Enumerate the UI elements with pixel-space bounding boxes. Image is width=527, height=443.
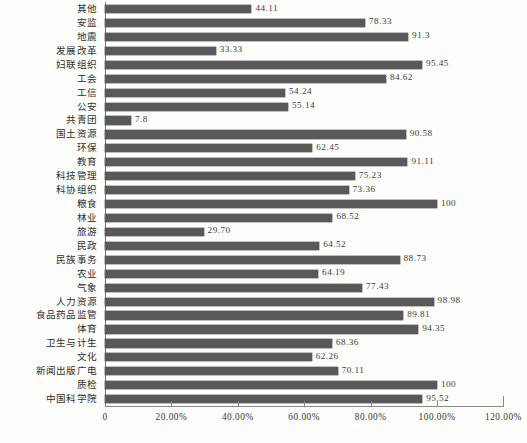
bar-value-label: 75.23: [359, 169, 382, 183]
y-axis-label: 质检: [77, 378, 97, 392]
y-axis-category-labels: 其他安监地震发展改革妇联组织工会工信公安共青团国土资源环保教育科技管理科协组织粮…: [0, 2, 101, 406]
bar-value-label: 98.98: [438, 294, 461, 308]
bar-row: 100: [105, 197, 503, 211]
bar: [105, 339, 332, 347]
y-axis-label: 国土资源: [56, 127, 97, 141]
bar-row: 62.26: [105, 350, 503, 364]
bar-value-label: 68.36: [336, 336, 359, 350]
y-axis-label: 体育: [77, 322, 97, 336]
x-tick-mark: [238, 401, 239, 406]
x-tick-label: 120.00%: [485, 412, 522, 422]
bar: [105, 325, 418, 333]
bar-value-label: 64.52: [323, 238, 346, 252]
bar-value-label: 84.62: [390, 71, 413, 85]
bar: [105, 311, 403, 319]
bar-chart: 其他安监地震发展改革妇联组织工会工信公安共青团国土资源环保教育科技管理科协组织粮…: [0, 0, 527, 443]
bar-value-label: 95.45: [426, 57, 449, 71]
x-tick-mark: [304, 401, 305, 406]
bar: [105, 158, 407, 166]
y-axis-label: 科技管理: [56, 169, 97, 183]
bar-row: 90.58: [105, 127, 503, 141]
bar-value-label: 70.11: [342, 364, 365, 378]
bar-row: 91.3: [105, 30, 503, 44]
bar-row: 68.52: [105, 211, 503, 225]
x-tick-label: 80.00%: [355, 412, 387, 422]
bar-row: 88.73: [105, 253, 503, 267]
bar-value-label: 77.43: [366, 280, 389, 294]
x-tick-label: 100.00%: [419, 412, 456, 422]
bar-value-label: 89.81: [407, 308, 430, 322]
bar-value-label: 90.58: [410, 127, 433, 141]
bar-row: 75.23: [105, 169, 503, 183]
bar: [105, 353, 312, 361]
figure-caption: [0, 436, 527, 443]
bar-value-label: 73.36: [353, 183, 376, 197]
bar-row: 29.70: [105, 225, 503, 239]
bar-row: 68.36: [105, 336, 503, 350]
bar-row: 7.8: [105, 113, 503, 127]
y-axis-label: 粮食: [77, 197, 97, 211]
bar-value-label: 78.33: [369, 15, 392, 29]
bar-value-label: 94.35: [422, 322, 445, 336]
bar: [105, 228, 204, 236]
bar: [105, 47, 216, 55]
bar-value-label: 91.11: [411, 155, 434, 169]
x-tick-mark: [503, 401, 504, 406]
bar-value-label: 54.24: [289, 85, 312, 99]
bar: [105, 200, 437, 208]
x-tick-label: 40.00%: [222, 412, 254, 422]
bar: [105, 172, 355, 180]
y-axis-label: 新闻出版广电: [36, 364, 97, 378]
bar: [105, 214, 332, 222]
bar: [105, 130, 406, 138]
bar-value-label: 29.70: [208, 224, 231, 238]
bar: [105, 75, 386, 83]
bar-value-label: 7.8: [135, 113, 148, 127]
y-axis-label: 工会: [77, 72, 97, 86]
bar: [105, 186, 349, 194]
y-axis-label: 卫生与计生: [46, 336, 97, 350]
bar-value-label: 33.33: [220, 43, 243, 57]
bar-value-label: 68.52: [336, 210, 359, 224]
bar: [105, 33, 408, 41]
bar: [105, 103, 288, 111]
bar: [105, 242, 319, 250]
bar-row: 73.36: [105, 183, 503, 197]
y-axis-label: 妇联组织: [56, 58, 97, 72]
y-axis-label: 安监: [77, 16, 97, 30]
x-tick-mark: [437, 401, 438, 406]
bar-row: 94.35: [105, 322, 503, 336]
y-axis-label: 共青团: [66, 113, 97, 127]
bar-value-label: 55.14: [292, 99, 315, 113]
y-axis-label: 环保: [77, 141, 97, 155]
bar-row: 84.62: [105, 72, 503, 86]
bar: [105, 284, 362, 292]
bar-value-label: 100: [441, 197, 456, 211]
bar-row: 91.11: [105, 155, 503, 169]
bar: [105, 144, 312, 152]
bar-row: 62.45: [105, 141, 503, 155]
bar-row: 77.43: [105, 281, 503, 295]
bar-row: 44.11: [105, 2, 503, 16]
bar-row: 70.11: [105, 364, 503, 378]
bar-value-label: 91.3: [412, 29, 430, 43]
y-axis-label: 工信: [77, 86, 97, 100]
bar: [105, 89, 285, 97]
y-axis-label: 公安: [77, 100, 97, 114]
bar: [105, 270, 318, 278]
bar-row: 54.24: [105, 86, 503, 100]
bar: [105, 19, 365, 27]
bar-row: 100: [105, 378, 503, 392]
y-axis-label: 食品药品监管: [36, 308, 97, 322]
bar-value-label: 62.45: [316, 141, 339, 155]
x-tick-mark: [171, 401, 172, 406]
bar-value-label: 88.73: [404, 252, 427, 266]
bar-value-label: 64.19: [322, 266, 345, 280]
bar: [105, 116, 131, 124]
x-tick-label: 0: [102, 412, 107, 422]
bar-value-label: 100: [441, 378, 456, 392]
bar: [105, 256, 400, 264]
plot-area: 44.1178.3391.333.3395.4584.6254.2455.147…: [105, 2, 503, 406]
bar: [105, 367, 338, 375]
bar-row: 78.33: [105, 16, 503, 30]
